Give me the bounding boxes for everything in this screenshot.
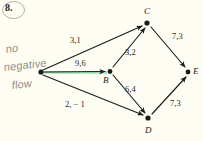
node-c xyxy=(144,20,149,25)
edge-a-to-d xyxy=(43,75,143,115)
edge-b-to-d xyxy=(113,75,145,113)
edge-label-b-c: 3,2 xyxy=(125,48,136,57)
node-b xyxy=(108,69,113,74)
edge-label-a-b: 9,6 xyxy=(75,59,86,68)
edge-label-b-d: 6,4 xyxy=(125,85,136,94)
diagram-canvas: 8. C B D E 3,1 9 xyxy=(0,0,203,141)
handwritten-note-line-1: no xyxy=(6,42,19,55)
handwritten-note-line-3: flow xyxy=(12,78,33,91)
edge-label-c-e: 7,3 xyxy=(172,32,183,41)
edge-label-a-d: 2, − 1 xyxy=(65,100,85,109)
edge-a-to-b xyxy=(44,72,105,73)
graph-layer xyxy=(0,0,203,141)
node-label-b: B xyxy=(103,76,109,85)
node-label-e: E xyxy=(193,67,199,76)
edge-d-to-e xyxy=(152,77,186,114)
node-label-d: D xyxy=(145,126,152,135)
node-e xyxy=(186,70,191,75)
node-d xyxy=(145,115,150,120)
node-label-c: C xyxy=(144,7,150,16)
edge-label-a-c: 3,1 xyxy=(70,36,81,45)
node-a xyxy=(38,69,43,74)
edge-label-d-e: 7,3 xyxy=(170,99,181,108)
